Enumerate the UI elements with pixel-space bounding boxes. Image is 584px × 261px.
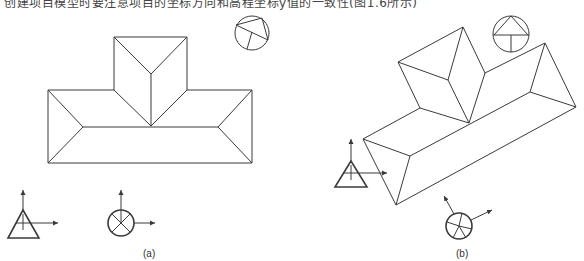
project-base-point-symbol-b bbox=[444, 196, 492, 239]
roof-plan-a bbox=[48, 37, 252, 163]
project-base-point-symbol-a bbox=[108, 190, 155, 236]
figure-label-a: (a) bbox=[143, 248, 155, 259]
north-arrow-b bbox=[493, 16, 529, 52]
roof-plan-b bbox=[363, 27, 576, 205]
north-arrow-a bbox=[235, 16, 269, 50]
diagram-canvas bbox=[0, 0, 584, 261]
survey-point-symbol-a bbox=[8, 190, 58, 238]
figure-label-b: (b) bbox=[456, 248, 468, 259]
survey-point-symbol-b bbox=[335, 139, 387, 187]
